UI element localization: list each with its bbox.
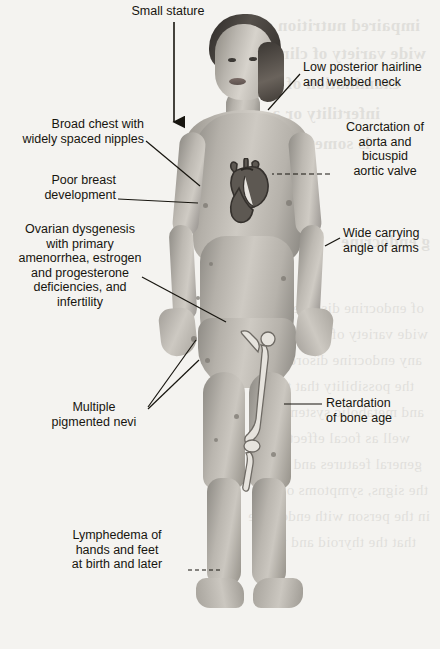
patient-neck [226, 92, 260, 126]
showthrough-line: well as focal effects [282, 430, 410, 447]
nevus-mark [203, 203, 208, 208]
leader-wide-carrying-angle [325, 238, 340, 246]
nevus-mark [209, 262, 213, 266]
patient-eye-left [228, 58, 236, 62]
leader-nevi-lower [148, 360, 199, 409]
nevus-mark [286, 200, 292, 206]
nevus-mark [281, 276, 286, 281]
nevus-mark [191, 336, 197, 342]
label-broad-chest-widely-spaced-nipples: Broad chest with widely spaced nipples [10, 117, 144, 146]
patient-eye-right [249, 57, 257, 61]
nevus-mark [214, 438, 218, 442]
patient-lips [229, 78, 246, 85]
patient-hair-side [258, 42, 284, 102]
label-low-posterior-hairline-webbed-neck: Low posterior hairline and webbed neck [303, 60, 438, 89]
patient-shin-right [252, 478, 286, 586]
label-coarctation-of-aorta: Coarctation of aorta and bicuspid aortic… [333, 120, 437, 178]
label-small-stature: Small stature [116, 4, 220, 19]
patient-head [215, 24, 273, 100]
femur-bone-overlay-icon [238, 330, 286, 492]
label-retardation-of-bone-age: Retardation of bone age [326, 396, 422, 425]
turner-syndrome-figure: impaired nutrition of thewide variety of… [0, 0, 440, 649]
nevus-mark [196, 296, 200, 300]
label-multiple-pigmented-nevi: Multiple pigmented nevi [38, 400, 150, 429]
leader-nevi-upper [148, 340, 196, 407]
patient-shin-left [207, 478, 241, 586]
patient-hair [209, 14, 281, 72]
patient-upper-arm-right [288, 131, 323, 237]
nevus-mark [205, 358, 210, 363]
leader-low-posterior-hairline [268, 74, 300, 110]
label-lymphedema-hands-feet: Lymphedema of hands and feet at birth an… [47, 528, 187, 572]
heart-overlay-icon [221, 158, 271, 232]
patient-forearm-right [296, 224, 325, 321]
showthrough-line: the possibility that the [271, 378, 414, 395]
label-ovarian-dysgenesis: Ovarian dysgenesis with primary amenorrh… [6, 222, 154, 309]
showthrough-line: impaired nutrition of the [229, 16, 420, 36]
label-wide-carrying-angle-of-arms: Wide carrying angle of arms [343, 226, 439, 255]
patient-forearm-left [169, 224, 198, 321]
label-poor-breast-development: Poor breast development [12, 173, 116, 202]
showthrough-line: general features and so [275, 456, 422, 473]
patient-upper-arm-left [172, 131, 207, 237]
showthrough-line: that the thyroid and the [267, 534, 416, 551]
